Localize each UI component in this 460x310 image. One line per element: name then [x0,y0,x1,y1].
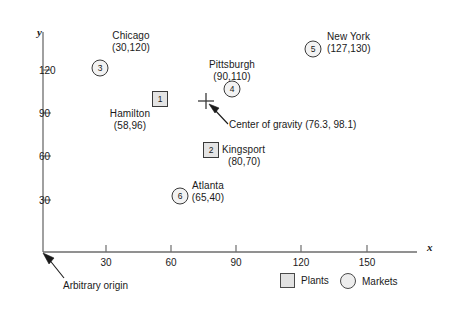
label-pittsburgh-name: Pittsburgh [209,59,255,71]
legend-label-markets: Markets [362,276,398,287]
marker-number: 6 [178,192,183,201]
x-axis-label: x [427,241,433,253]
label-arbitrary-origin: Arbitrary origin [63,280,128,291]
legend-label-plants: Plants [301,275,329,286]
x-tick-label-60: 60 [165,257,176,268]
market-marker-atlanta[interactable]: 6 [172,188,189,205]
label-kingsport-coord: (80,70) [228,156,260,168]
legend-item-markets[interactable]: Markets [340,273,398,289]
x-tick-label-150: 150 [359,257,376,268]
label-chicago-coord: (30,120) [112,42,150,54]
market-marker-pittsburgh[interactable]: 4 [224,81,241,98]
chart-figure: y x 120 90 60 30 30 60 90 120 150 3 4 5 … [0,0,460,310]
marker-number: 4 [230,85,235,94]
y-axis-label: y [37,26,42,38]
label-hamilton-coord: (58,96) [114,120,146,132]
marker-number: 5 [311,45,316,54]
arbitrary-origin-leader [43,253,64,278]
label-hamilton-name: Hamilton [110,108,150,120]
x-tick-label-120: 120 [293,257,310,268]
marker-number: 1 [158,95,163,104]
x-tick-label-30: 30 [100,257,111,268]
x-tick-label-90: 90 [230,257,241,268]
label-newyork-name: New York [327,31,370,43]
label-pittsburgh-coord: (90,110) [213,71,250,83]
legend-item-plants[interactable]: Plants [280,273,329,288]
market-marker-newyork[interactable]: 5 [305,41,322,58]
label-center-of-gravity: Center of gravity (76.3, 98.1) [229,119,356,130]
label-atlanta-name: Atlanta [192,180,224,192]
market-marker-chicago[interactable]: 3 [92,60,109,77]
marker-number: 2 [209,146,214,155]
y-tick-marks [43,70,51,200]
plants-square-icon [280,273,295,288]
label-chicago-name: Chicago [112,30,149,42]
plant-marker-hamilton[interactable]: 1 [152,91,168,107]
label-newyork-coord: (127,130) [327,43,371,55]
marker-number: 3 [98,64,103,73]
plant-marker-kingsport[interactable]: 2 [203,142,219,158]
label-atlanta-coord: (65,40) [192,192,224,204]
markets-circle-icon [340,273,356,289]
x-tick-marks [106,245,367,252]
label-kingsport-name: Kingsport [222,144,265,156]
center-of-gravity-leader [209,104,228,124]
